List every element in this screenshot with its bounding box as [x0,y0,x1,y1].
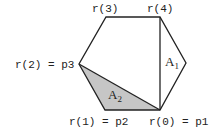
vertex-label-r4: r(4) [147,3,173,15]
vertex-label-r1: r(1) = p2 [69,116,128,128]
vertex-label-r3: r(3) [92,3,118,15]
vertex-label-r2: r(2) = p3 [15,59,74,71]
region-label-a1: A1 [165,54,179,71]
vertex-label-r0: r(0) = p1 [149,116,209,128]
hexagon-diagram: r(3) r(4) r(2) = p3 r(1) = p2 r(0) = p1 … [0,0,216,132]
